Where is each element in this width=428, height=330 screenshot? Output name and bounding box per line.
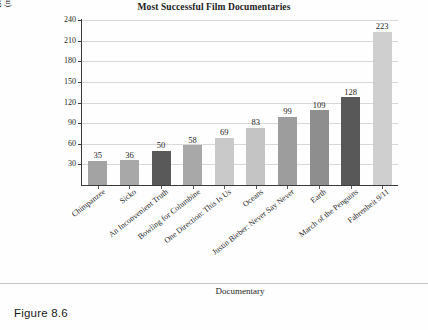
x-axis-tick xyxy=(98,186,99,189)
bar-value-label: 223 xyxy=(376,22,389,31)
bar: 36 xyxy=(120,160,139,185)
bar: 128 xyxy=(341,97,360,185)
y-axis-title-line2: (millions of dollars) xyxy=(3,0,12,40)
y-axis-tick-label: 60 xyxy=(68,140,76,148)
y-axis-title: Box Office Revenue (millions of dollars) xyxy=(0,0,13,40)
y-axis-tick-label: 210 xyxy=(64,37,76,45)
bar: 83 xyxy=(246,128,265,185)
bar: 50 xyxy=(152,151,171,185)
bar: 99 xyxy=(278,117,297,185)
x-axis-tick-label: Oceans xyxy=(241,188,264,209)
y-axis-tick-label: 150 xyxy=(64,78,76,86)
y-axis-tick xyxy=(78,123,82,124)
y-axis-tick-label: 240 xyxy=(64,16,76,24)
bar-value-label: 58 xyxy=(188,136,197,145)
figure-caption: Figure 8.6 xyxy=(14,307,68,319)
bar-value-label: 128 xyxy=(344,88,357,97)
gridline xyxy=(82,61,398,62)
x-axis-tick xyxy=(193,186,194,189)
y-axis-tick xyxy=(78,164,82,165)
y-axis-tick xyxy=(78,103,82,104)
y-axis-tick xyxy=(78,144,82,145)
gridline xyxy=(82,41,398,42)
bar-value-label: 50 xyxy=(157,141,166,150)
x-axis-tick-label: Sicko xyxy=(119,188,138,206)
bar-value-label: 69 xyxy=(220,128,229,137)
x-axis-title: Documentary xyxy=(82,286,398,296)
y-axis-tick xyxy=(78,61,82,62)
x-axis-tick-label: Chimpanzee xyxy=(70,188,106,219)
x-axis-tick xyxy=(256,186,257,189)
footer-divider xyxy=(0,283,428,284)
x-axis-tick xyxy=(161,186,162,189)
y-axis-tick-label: 120 xyxy=(64,99,76,107)
bar-value-label: 99 xyxy=(283,107,292,116)
y-axis-tick xyxy=(78,20,82,21)
plot-area: 3060901201501802102403536505869839910912… xyxy=(82,20,398,185)
x-axis-tick xyxy=(351,186,352,189)
bar-value-label: 83 xyxy=(252,118,261,127)
bar: 223 xyxy=(373,32,392,185)
x-axis-tick xyxy=(382,186,383,189)
y-axis-tick-label: 30 xyxy=(68,160,76,168)
bar-value-label: 109 xyxy=(313,101,326,110)
bar: 35 xyxy=(88,161,107,185)
gridline xyxy=(82,20,398,21)
x-axis-tick xyxy=(224,186,225,189)
y-axis-tick-label: 180 xyxy=(64,57,76,65)
x-axis-tick xyxy=(129,186,130,189)
gridline xyxy=(82,82,398,83)
y-axis-tick-label: 90 xyxy=(68,119,76,127)
bar-value-label: 35 xyxy=(94,151,103,160)
bar-value-label: 36 xyxy=(125,151,134,160)
bar: 109 xyxy=(310,110,329,185)
x-axis-tick xyxy=(287,186,288,189)
chart-title: Most Successful Film Documentaries xyxy=(0,2,428,12)
y-axis-tick xyxy=(78,82,82,83)
figure-container: Most Successful Film Documentaries Box O… xyxy=(0,0,428,330)
bar: 58 xyxy=(183,145,202,185)
x-axis-tick-label: Earth xyxy=(309,188,328,205)
x-axis-tick xyxy=(319,186,320,189)
bar: 69 xyxy=(215,138,234,185)
y-axis-tick xyxy=(78,41,82,42)
